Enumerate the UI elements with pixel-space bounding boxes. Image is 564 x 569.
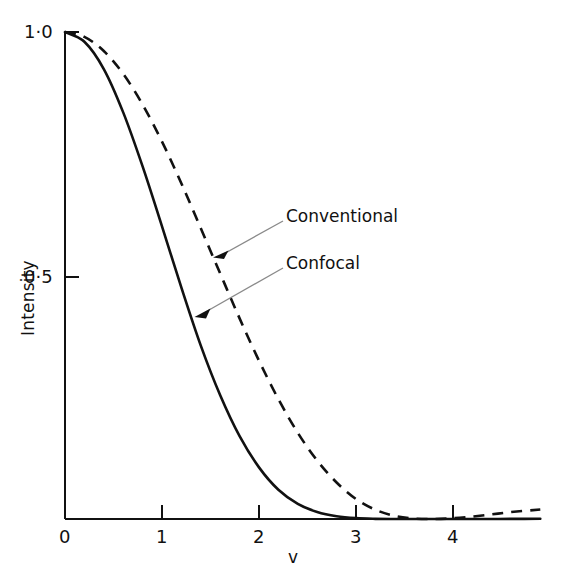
- x-tick-marks: [65, 505, 453, 519]
- x-tick-label-0: 0: [59, 528, 70, 546]
- y-tick-marks: [65, 32, 79, 277]
- annotation-label-confocal: Confocal: [286, 255, 360, 272]
- y-tick-label-1-0: 1·0: [24, 23, 53, 41]
- axis-group: [65, 32, 541, 519]
- x-axis-title: v: [288, 549, 298, 566]
- annotation-label-conventional: Conventional: [286, 208, 398, 225]
- arrowhead-confocal: [195, 309, 211, 319]
- x-tick-label-1: 1: [156, 528, 167, 546]
- y-axis-title: Intensity: [20, 260, 37, 336]
- chart-figure: 1·0 0·5 0 1 2 3 4 v Intensity Convention…: [0, 0, 564, 569]
- annotation-leaders-group: [195, 221, 284, 319]
- leader-line-confocal: [202, 268, 283, 314]
- x-tick-label-4: 4: [447, 528, 458, 546]
- plot-canvas: [0, 0, 564, 569]
- arrowhead-conventional: [213, 251, 229, 260]
- x-tick-label-3: 3: [350, 528, 361, 546]
- data-series-group: [65, 32, 540, 519]
- x-tick-label-2: 2: [253, 528, 264, 546]
- series-line-confocal: [65, 32, 540, 519]
- leader-line-conventional: [220, 221, 283, 256]
- series-line-conventional: [65, 32, 540, 519]
